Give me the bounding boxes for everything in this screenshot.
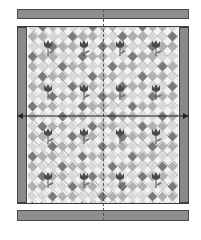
patch-diamond [168, 62, 178, 72]
patch-diamond [168, 132, 178, 142]
patch-diamond [28, 142, 37, 152]
patch-diamond [168, 92, 178, 102]
patch-diamond [88, 202, 98, 203]
patch-diamond [168, 182, 178, 192]
patch-diamond [28, 52, 37, 62]
patch-diamond [138, 152, 148, 162]
patch-diamond [38, 72, 48, 82]
patch-diamond [48, 162, 58, 172]
tulip-icon [42, 39, 54, 57]
tulip-icon [42, 127, 54, 145]
patch-diamond [138, 62, 148, 72]
patch-diamond [168, 202, 178, 203]
patch-diamond [138, 132, 148, 142]
patch-diamond [48, 62, 58, 72]
patch-diamond [128, 142, 138, 152]
patch-diamond [38, 162, 48, 172]
patch-diamond [58, 162, 68, 172]
patch-diamond [58, 192, 68, 202]
patch-diamond [108, 102, 118, 112]
patch-diamond [58, 132, 68, 142]
patch-diamond [68, 192, 78, 202]
patch-diamond [58, 92, 68, 102]
patch-diamond [138, 92, 148, 102]
patch-diamond [28, 152, 37, 162]
patch-diamond [58, 62, 68, 72]
tulip-icon [78, 127, 90, 145]
patch-diamond [28, 182, 37, 192]
patch-diamond [128, 92, 138, 102]
patch-diamond [88, 192, 98, 202]
patch-diamond [28, 122, 37, 132]
patch-diamond [48, 192, 58, 202]
patch-diamond [28, 42, 37, 52]
patch-diamond [118, 192, 128, 202]
patch-diamond [138, 142, 148, 152]
patch-diamond [128, 42, 138, 52]
patch-diamond [58, 122, 68, 132]
tulip-icon [150, 83, 162, 101]
tulip-icon [78, 171, 90, 189]
patch-diamond [108, 152, 118, 162]
patch-diamond [58, 82, 68, 92]
patch-diamond [28, 162, 37, 172]
patch-diamond [48, 152, 58, 162]
patch-diamond [128, 32, 138, 42]
patch-diamond [78, 72, 88, 82]
patch-diamond [168, 142, 178, 152]
patch-diamond [138, 72, 148, 82]
tulip-icon [150, 39, 162, 57]
patch-diamond [128, 152, 138, 162]
patch-diamond [68, 152, 78, 162]
patch-diamond [58, 52, 68, 62]
patch-diamond [28, 172, 37, 182]
patch-diamond [28, 92, 37, 102]
patch-diamond [88, 152, 98, 162]
patch-diamond [118, 102, 128, 112]
patch-diamond [58, 202, 68, 203]
patch-diamond [168, 42, 178, 52]
tulip-icon [78, 83, 90, 101]
patch-diamond [168, 72, 178, 82]
tulip-icon [78, 39, 90, 57]
patch-diamond [158, 152, 168, 162]
patch-diamond [128, 172, 138, 182]
patch-diamond [68, 92, 78, 102]
patch-diamond [128, 132, 138, 142]
patch-diamond [128, 122, 138, 132]
patch-diamond [88, 62, 98, 72]
patch-diamond [38, 62, 48, 72]
patch-diamond [78, 162, 88, 172]
patch-diamond [28, 192, 37, 202]
patch-diamond [108, 72, 118, 82]
patch-diamond [68, 172, 78, 182]
patch-diamond [68, 52, 78, 62]
patch-diamond [148, 102, 158, 112]
patch-diamond [148, 192, 158, 202]
patch-diamond [78, 192, 88, 202]
patch-diamond [148, 162, 158, 172]
tulip-icon [114, 171, 126, 189]
patch-diamond [68, 82, 78, 92]
patch-diamond [158, 192, 168, 202]
patch-diamond [68, 182, 78, 192]
patch-diamond [128, 82, 138, 92]
patch-diamond [158, 202, 168, 203]
patch-diamond [168, 52, 178, 62]
patch-diamond [118, 152, 128, 162]
patch-diamond [148, 152, 158, 162]
patch-diamond [68, 32, 78, 42]
patch-diamond [128, 72, 138, 82]
patch-diamond [68, 72, 78, 82]
tulip-icon [150, 171, 162, 189]
patch-diamond [158, 62, 168, 72]
patch-diamond [38, 102, 48, 112]
patch-diamond [58, 42, 68, 52]
patch-diamond [138, 182, 148, 192]
patch-diamond [108, 192, 118, 202]
patch-diamond [118, 72, 128, 82]
patch-diamond [28, 32, 37, 42]
patch-diamond [138, 102, 148, 112]
patch-diamond [158, 102, 168, 112]
patch-diamond [108, 162, 118, 172]
